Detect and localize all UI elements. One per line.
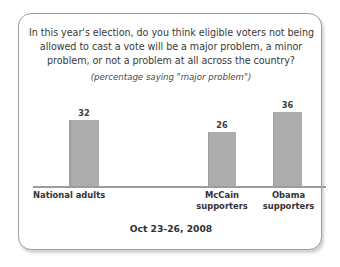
chart-title-line-1: In this year's election, do you think el… [29,26,313,40]
category-label-line: supporters [183,201,261,212]
bar-group-obama-supporters: 36 [273,112,302,187]
bar-national-adults [69,120,99,186]
plot-area: 32 26 36 [33,97,322,186]
category-label-national-adults: National adults [33,190,153,201]
category-label-line: supporters [251,201,326,212]
x-axis-baseline [33,186,326,188]
chart-card: In this year's election, do you think el… [18,13,322,250]
bar-group-mccain-supporters: 26 [208,132,236,186]
category-label-line: Obama [251,190,326,201]
chart-title-line-3: problem, or not a problem at all across … [29,54,313,68]
bar-group-national-adults: 32 [69,120,99,186]
category-label-obama-supporters: Obama supporters [251,190,326,213]
page-title: In this year's election, do you think el… [29,26,313,69]
bar-value-label: 36 [282,100,293,110]
category-label-line: National adults [33,190,153,201]
bar-mccain-supporters [208,132,236,186]
bar-obama-supporters [273,112,302,187]
chart-footer-date: Oct 23-26, 2008 [29,223,313,234]
chart-subtitle: (percentage saying "major problem") [29,72,313,82]
bar-value-label: 32 [78,108,89,118]
chart-title-line-2: allowed to cast a vote will be a major p… [29,40,313,54]
category-label-mccain-supporters: McCain supporters [183,190,261,213]
bar-value-label: 26 [216,120,227,130]
chart-title-block: In this year's election, do you think el… [29,26,313,82]
category-label-line: McCain [183,190,261,201]
